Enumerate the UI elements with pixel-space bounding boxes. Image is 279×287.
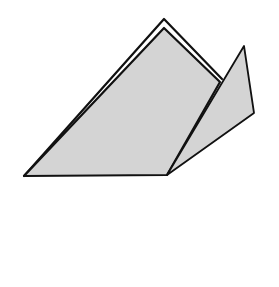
origami-diagram (0, 0, 279, 287)
